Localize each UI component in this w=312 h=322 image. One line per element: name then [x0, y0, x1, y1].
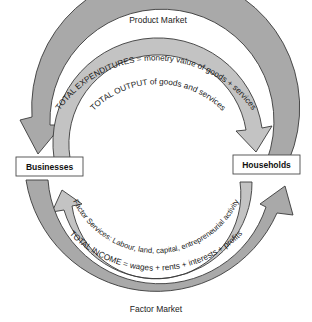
factor-market-label: Factor Market: [130, 304, 183, 314]
households-node: Households: [233, 155, 300, 174]
total-output-label: TOTAL OUTPUT of goods and services: [89, 77, 228, 112]
product-market-label: Product Market: [129, 15, 187, 25]
households-label: Households: [242, 160, 291, 170]
businesses-label: Businesses: [26, 162, 74, 172]
circular-flow-diagram: Product Market TOTAL EXPENDITURES = mone…: [0, 0, 312, 322]
factor-services-label: Factor Services: Labour, land, capital, …: [71, 198, 240, 255]
businesses-node: Businesses: [16, 157, 83, 176]
